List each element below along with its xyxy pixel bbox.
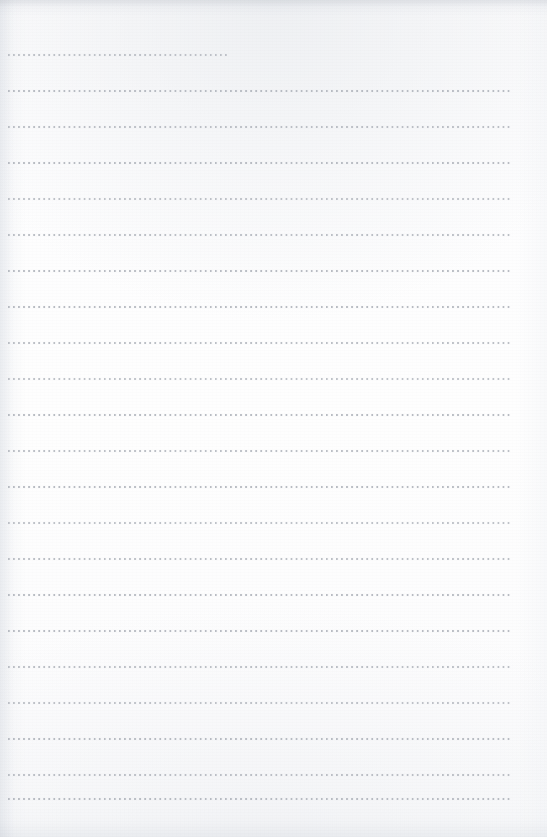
- rule-line: [8, 558, 512, 560]
- rule-line: [8, 738, 512, 740]
- rule-line: [8, 666, 512, 668]
- rule-line: [8, 342, 512, 344]
- rule-line: [8, 126, 512, 128]
- rule-line: [8, 594, 512, 596]
- rule-line: [8, 630, 512, 632]
- rule-line: [8, 198, 512, 200]
- scanned-page: [0, 0, 547, 837]
- rule-line: [8, 774, 512, 776]
- rule-line: [8, 522, 512, 524]
- rule-line: [8, 90, 512, 92]
- rule-line: [8, 378, 512, 380]
- rule-line: [8, 798, 512, 800]
- dotted-rule-lines: [0, 0, 547, 837]
- rule-line: [8, 702, 512, 704]
- rule-line: [8, 234, 512, 236]
- rule-line: [8, 486, 512, 488]
- rule-line: [8, 306, 512, 308]
- rule-line: [8, 414, 512, 416]
- rule-line: [8, 162, 512, 164]
- rule-line: [8, 450, 512, 452]
- rule-line: [8, 54, 227, 56]
- rule-line: [8, 270, 512, 272]
